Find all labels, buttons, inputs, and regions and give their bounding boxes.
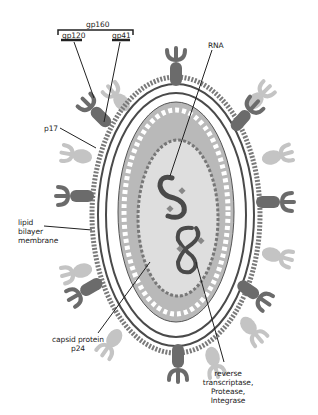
label-p17: p17 (44, 124, 58, 133)
label-capsid-protein: capsid protein p24 (46, 335, 110, 353)
label-enzymes-line2: transcriptase, (200, 378, 256, 387)
label-gp41: gp41 (112, 31, 131, 40)
label-gp120: gp120 (62, 31, 85, 40)
label-enzymes-line3: Protease, (200, 387, 256, 396)
label-lipid-bilayer: lipid bilayer membrane (18, 218, 58, 245)
label-enzymes-line1: reverse (200, 369, 256, 378)
label-enzymes-line4: Integrase (200, 396, 256, 405)
label-lipid-line1: lipid (18, 218, 58, 227)
label-gp160: gp160 (86, 20, 109, 29)
label-lipid-line3: membrane (18, 236, 58, 245)
virus-diagram: gp160 gp120 gp41 RNA p17 lipid bilayer m… (0, 0, 318, 415)
label-capsid-line2: p24 (46, 344, 110, 353)
label-enzymes: reverse transcriptase, Protease, Integra… (200, 369, 256, 405)
label-capsid-line1: capsid protein (46, 335, 110, 344)
label-rna: RNA (208, 41, 224, 50)
label-lipid-line2: bilayer (18, 227, 58, 236)
